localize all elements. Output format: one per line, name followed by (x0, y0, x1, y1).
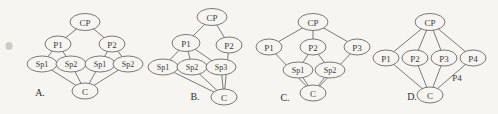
node-label-a-sp1: Sp1 (36, 60, 48, 69)
node-label-a-sp3: Sp1 (94, 60, 106, 69)
node-label-d-p4: P4 (468, 54, 478, 64)
edge-b-sp2-to-b-c (199, 74, 216, 90)
diagram-panel-b: CPP1P2Sp1Sp2Sp3CB. (148, 9, 242, 106)
edge-a-p1-to-a-sp1 (48, 51, 52, 56)
node-label-c-cp: CP (307, 18, 318, 28)
node-label-a-p1: P1 (53, 40, 63, 50)
diagram-panel-c: CPP1P2P3Sp1Sp2CC. (256, 14, 370, 103)
node-label-b-p2: P2 (224, 41, 234, 51)
node-label-c-p1: P1 (264, 43, 274, 53)
edge-a-cp-to-a-p2 (94, 29, 105, 38)
edge-a-p2-to-a-sp4 (118, 51, 122, 56)
node-b-sp3[interactable]: Sp3 (206, 59, 236, 75)
node-label-d-c: C (427, 91, 433, 101)
edge-b-cp-to-b-p1 (193, 24, 204, 35)
edge-b-p1-to-b-sp2 (188, 51, 190, 59)
node-c-c[interactable]: C (300, 85, 326, 101)
node-b-c[interactable]: C (211, 89, 237, 105)
node-a-sp3[interactable]: Sp1 (85, 56, 115, 72)
node-b-sp1[interactable]: Sp1 (148, 59, 178, 75)
node-label-b-c: C (221, 93, 227, 103)
node-a-sp4[interactable]: Sp2 (113, 56, 143, 72)
node-label-b-sp1: Sp1 (157, 63, 169, 72)
diagram-svg: CPP1P2Sp1Sp2Sp1Sp2CA.CPP1P2Sp1Sp2Sp3CB.C… (0, 0, 498, 114)
node-a-sp1[interactable]: Sp1 (27, 56, 57, 72)
diagram-panel-a: CPP1P2Sp1Sp2Sp1Sp2CA. (27, 14, 143, 100)
edge-group-b (170, 24, 228, 92)
edge-d-p3-to-d-c (433, 66, 441, 87)
node-label-c-c: C (310, 89, 316, 99)
node-c-cp[interactable]: CP (298, 14, 328, 31)
node-label-d-p3: P3 (439, 54, 449, 64)
edge-a-p1-to-a-sp2 (63, 51, 66, 56)
edge-c-cp-to-c-p1 (279, 28, 303, 42)
node-label-b-sp2: Sp2 (186, 63, 198, 72)
node-b-sp2[interactable]: Sp2 (177, 59, 207, 75)
node-a-c[interactable]: C (72, 83, 98, 99)
panel-label-c: C. (280, 92, 289, 103)
node-a-p2[interactable]: P2 (99, 36, 125, 52)
node-d-c[interactable]: C (417, 87, 443, 103)
scan-speck (6, 42, 13, 50)
edge-d-cp-to-d-p2 (418, 30, 426, 50)
edge-a-cp-to-a-p1 (66, 29, 77, 38)
node-label-a-sp2: Sp2 (65, 60, 77, 69)
node-label-a-c: C (82, 87, 88, 97)
edge-c-p2-to-c-sp1 (303, 54, 308, 62)
node-d-p3[interactable]: P3 (431, 50, 457, 66)
node-label-d-p2: P2 (410, 54, 420, 64)
edge-d-p2-to-d-c (418, 66, 427, 87)
edge-c-sp1-to-c-c (303, 78, 308, 86)
edge-c-p2-to-c-sp2 (318, 54, 324, 62)
node-label-d-cp: CP (424, 18, 435, 28)
node-label-a-sp4: Sp2 (122, 60, 134, 69)
node-d-p2[interactable]: P2 (402, 50, 428, 66)
node-label-c-p2: P2 (308, 43, 318, 53)
panel-label-a: A. (35, 87, 45, 98)
edge-a-sp2-to-a-c (75, 72, 81, 84)
figure-canvas: CPP1P2Sp1Sp2Sp1Sp2CA.CPP1P2Sp1Sp2Sp3CB.C… (0, 0, 498, 114)
edge-b-cp-to-b-p2 (217, 25, 225, 37)
node-label-b-cp: CP (206, 13, 217, 23)
edge-d-cp-to-d-p3 (433, 30, 441, 50)
node-label-c-sp1: Sp1 (292, 66, 304, 75)
node-c-p2[interactable]: P2 (300, 39, 326, 55)
edge-a-p2-to-a-sp3 (105, 52, 108, 57)
panel-label-d: D. (407, 91, 417, 102)
node-b-p2[interactable]: P2 (216, 37, 242, 53)
panel-label-b: B. (190, 91, 199, 102)
edge-c-cp-to-c-p3 (324, 28, 348, 42)
node-label-a-cp: CP (79, 18, 90, 28)
node-b-p1[interactable]: P1 (172, 35, 200, 52)
edge-b-p1-to-b-sp1 (170, 50, 179, 60)
node-c-p1[interactable]: P1 (256, 39, 282, 55)
edge-d-cp-to-d-p4 (438, 29, 465, 52)
node-b-cp[interactable]: CP (197, 9, 227, 26)
stray-label-stray-p4: P4 (452, 73, 462, 83)
node-label-c-p3: P3 (352, 43, 362, 53)
edge-a-sp3-to-a-c (89, 72, 96, 84)
node-label-a-p2: P2 (107, 40, 117, 50)
edge-group-c (276, 28, 351, 86)
edge-d-p1-to-d-c (394, 64, 423, 88)
node-c-sp1[interactable]: Sp1 (283, 62, 313, 78)
node-a-sp2[interactable]: Sp2 (56, 56, 86, 72)
node-a-cp[interactable]: CP (70, 14, 100, 31)
edge-b-p1-to-b-sp3 (195, 49, 212, 60)
node-a-p1[interactable]: P1 (45, 36, 71, 52)
node-c-sp2[interactable]: Sp2 (315, 62, 345, 78)
edge-d-cp-to-d-p1 (394, 29, 422, 52)
node-d-p4[interactable]: P4 (460, 50, 486, 66)
node-d-cp[interactable]: CP (415, 14, 445, 31)
node-label-b-p1: P1 (181, 39, 191, 49)
node-label-d-p1: P1 (381, 54, 391, 64)
edge-a-sp4-to-a-c (94, 70, 118, 85)
node-c-p3[interactable]: P3 (344, 39, 370, 55)
node-label-c-sp2: Sp2 (324, 66, 336, 75)
node-d-p1[interactable]: P1 (373, 50, 399, 66)
edge-b-sp3-to-b-c (222, 75, 223, 89)
node-label-b-sp3: Sp3 (215, 63, 227, 72)
diagram-panel-d: CPP1P2P3P4CD. (373, 14, 486, 104)
